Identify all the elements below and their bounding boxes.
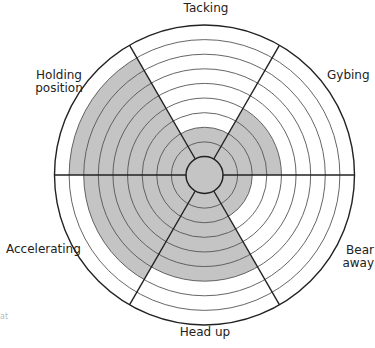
center-hub	[186, 157, 223, 194]
label-holding-position: Holding position	[34, 69, 84, 95]
label-accelerating: Accelerating	[6, 243, 81, 256]
label-bear-away: Bear away	[340, 244, 374, 270]
label-head-up: Head up	[170, 326, 240, 339]
label-bear-away-line2: away	[340, 257, 374, 270]
cropped-text-fragment: at	[0, 312, 8, 321]
label-tacking: Tacking	[176, 2, 236, 15]
shaded-sectors	[69, 58, 281, 281]
label-gybing: Gybing	[327, 69, 370, 82]
label-holding-line2: position	[34, 82, 84, 95]
sailing-skills-wheel-chart	[0, 0, 375, 348]
